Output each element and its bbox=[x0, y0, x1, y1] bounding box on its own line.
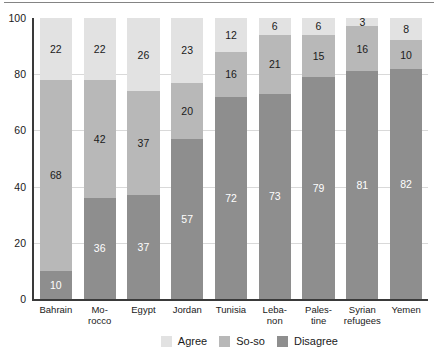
x-axis-category-label: Yemen bbox=[384, 304, 428, 315]
y-axis-tick-label: 20 bbox=[14, 238, 26, 249]
legend-item-disagree[interactable]: Disagree bbox=[277, 336, 338, 347]
bar-segment-so-so[interactable] bbox=[40, 80, 72, 271]
legend-swatch-icon bbox=[161, 336, 172, 347]
stacked-bar-chart: 020406080100 106822364222373726572023721… bbox=[0, 0, 436, 362]
bar-segment-disagree[interactable] bbox=[302, 77, 334, 299]
x-axis-category-label: Bahrain bbox=[34, 304, 78, 315]
legend-label: Agree bbox=[178, 336, 207, 347]
bar-segment-disagree[interactable] bbox=[390, 69, 422, 299]
bar-segment-agree[interactable] bbox=[127, 18, 159, 91]
x-axis-category-label: Leba-non bbox=[253, 304, 297, 326]
y-axis-tick-label: 80 bbox=[14, 69, 26, 80]
bar-segment-agree[interactable] bbox=[302, 18, 334, 35]
x-axis-category-label: Syrianrefugees bbox=[341, 304, 385, 326]
bar-segment-so-so[interactable] bbox=[346, 26, 378, 71]
bar-column[interactable]: 721612 bbox=[215, 18, 247, 299]
x-axis-category-labels: BahrainMo-roccoEgyptJordanTunisiaLeba-no… bbox=[34, 304, 428, 334]
bar-segment-agree[interactable] bbox=[84, 18, 116, 80]
bar-segment-so-so[interactable] bbox=[84, 80, 116, 198]
legend-swatch-icon bbox=[277, 336, 288, 347]
x-axis-category-label: Mo-rocco bbox=[78, 304, 122, 326]
bar-segment-so-so[interactable] bbox=[259, 35, 291, 94]
bar-segment-disagree[interactable] bbox=[346, 71, 378, 299]
bar-segment-disagree[interactable] bbox=[40, 271, 72, 299]
legend-item-so-so[interactable]: So-so bbox=[219, 336, 265, 347]
bar-segment-so-so[interactable] bbox=[171, 83, 203, 139]
y-axis-tick-label: 40 bbox=[14, 181, 26, 192]
y-axis-tick-label: 100 bbox=[8, 13, 26, 24]
legend-item-agree[interactable]: Agree bbox=[161, 336, 207, 347]
bar-segment-agree[interactable] bbox=[215, 18, 247, 52]
bar-segment-so-so[interactable] bbox=[302, 35, 334, 77]
legend-swatch-icon bbox=[219, 336, 230, 347]
x-axis-category-label: Pales-tine bbox=[297, 304, 341, 326]
x-axis-category-label: Egypt bbox=[122, 304, 166, 315]
bar-column[interactable]: 572023 bbox=[171, 18, 203, 299]
bar-segment-so-so[interactable] bbox=[215, 52, 247, 97]
bar-segment-so-so[interactable] bbox=[390, 40, 422, 68]
bar-segment-disagree[interactable] bbox=[259, 94, 291, 299]
bar-segment-agree[interactable] bbox=[346, 18, 378, 26]
bar-series-group: 1068223642223737265720237216127321679156… bbox=[34, 18, 428, 299]
bar-column[interactable]: 73216 bbox=[259, 18, 291, 299]
bar-column[interactable]: 82108 bbox=[390, 18, 422, 299]
legend-label: So-so bbox=[236, 336, 265, 347]
bar-segment-agree[interactable] bbox=[171, 18, 203, 83]
bar-column[interactable]: 364222 bbox=[84, 18, 116, 299]
legend-label: Disagree bbox=[294, 336, 338, 347]
bar-segment-disagree[interactable] bbox=[84, 198, 116, 299]
bar-column[interactable]: 106822 bbox=[40, 18, 72, 299]
plot-area: 020406080100 106822364222373726572023721… bbox=[32, 18, 428, 299]
y-axis-tick-label: 0 bbox=[20, 294, 26, 305]
x-axis-line bbox=[32, 299, 428, 301]
chart-legend: AgreeSo-soDisagree bbox=[0, 336, 436, 347]
x-axis-category-label: Tunisia bbox=[209, 304, 253, 315]
bar-segment-disagree[interactable] bbox=[171, 139, 203, 299]
x-axis-category-label: Jordan bbox=[165, 304, 209, 315]
bar-segment-so-so[interactable] bbox=[127, 91, 159, 195]
y-axis-tick-label: 60 bbox=[14, 125, 26, 136]
bar-segment-agree[interactable] bbox=[40, 18, 72, 80]
bar-segment-disagree[interactable] bbox=[127, 195, 159, 299]
bar-segment-agree[interactable] bbox=[259, 18, 291, 35]
bar-column[interactable]: 79156 bbox=[302, 18, 334, 299]
bar-column[interactable]: 373726 bbox=[127, 18, 159, 299]
top-divider bbox=[4, 2, 434, 3]
bar-column[interactable]: 81163 bbox=[346, 18, 378, 299]
bar-segment-agree[interactable] bbox=[390, 18, 422, 40]
bar-segment-disagree[interactable] bbox=[215, 97, 247, 299]
